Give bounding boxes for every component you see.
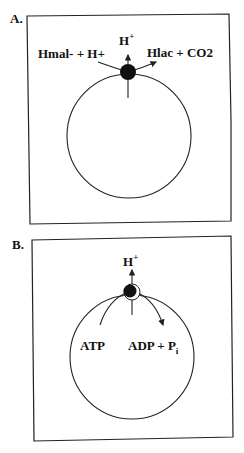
panel-b-adp-label: ADP + Pi [128,338,178,356]
proton-base: H [119,33,129,48]
diagram-canvas [0,0,244,453]
panel-a-vesicle [67,74,191,198]
panel-b-transporter-icon [124,285,137,298]
proton-base: H [123,254,133,269]
adp-pi-text: ADP + P [128,338,176,353]
panel-a-proton-label: H+ [119,31,134,49]
proton-charge: + [129,31,134,41]
pi-subscript: i [176,346,179,356]
proton-charge: + [133,252,138,262]
panel-a-product-label: Hlac + CO2 [147,45,213,61]
panel-b-atp-path [100,292,128,325]
panel-b-atp-label: ATP [80,338,105,354]
panel-b-label: B. [12,237,24,253]
panel-b-proton-label: H+ [123,252,138,270]
panel-a-substrate-label: Hmal- + H+ [38,46,105,62]
panel-a-label: A. [10,11,23,27]
panel-a-transporter-icon [120,64,136,80]
